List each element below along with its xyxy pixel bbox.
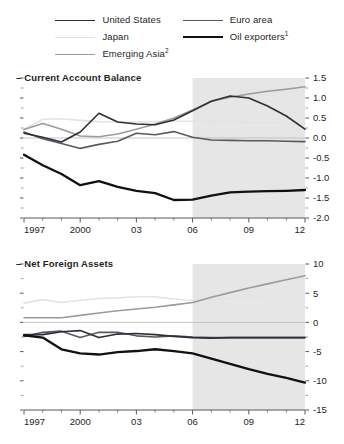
x-axis-label: 12	[294, 224, 305, 235]
legend-label-oil-exporters-text: Oil exporters	[230, 31, 285, 42]
y-axis-label: -1.0	[313, 172, 329, 183]
legend-label-japan: Japan	[102, 32, 128, 42]
legend-label-emerging-asia-text: Emerging Asia	[102, 48, 165, 59]
legend-column-left: United States Japan Emerging Asia2	[55, 14, 168, 60]
panel-net-foreign-assets: – Net Foreign Assets 1050-5-10-151997200…	[0, 252, 344, 438]
y-axis-label: 5	[313, 288, 318, 299]
y-axis-label: 1.5	[313, 72, 326, 83]
x-axis-label: 12	[294, 416, 305, 427]
plot-net-foreign-assets: 1050-5-10-151997200003060912	[0, 252, 344, 438]
legend-swatch-japan	[55, 37, 95, 38]
chart-page: United States Japan Emerging Asia2 Euro …	[0, 0, 344, 444]
x-axis-label: 1997	[24, 416, 45, 427]
x-axis-label: 2000	[70, 224, 91, 235]
legend-item-japan: Japan	[55, 31, 168, 43]
legend-swatch-euro-area	[183, 20, 223, 21]
y-axis-label: 1.0	[313, 92, 326, 103]
legend-swatch-emerging-asia	[55, 54, 95, 55]
x-axis-label: 06	[187, 416, 198, 427]
y-axis-label: -2.0	[313, 212, 329, 223]
y-axis-label: -0.5	[313, 152, 329, 163]
legend-item-emerging-asia: Emerging Asia2	[55, 48, 168, 60]
y-axis-label: -15	[313, 404, 327, 415]
plot-current-account-balance: 1.51.00.50.0-0.5-1.0-1.5-2.0199720000306…	[0, 66, 344, 246]
y-axis-label: 0	[313, 317, 318, 328]
y-axis-label: 10	[313, 258, 324, 269]
x-axis-label: 2000	[70, 416, 91, 427]
legend-footnote-marker-2: 2	[165, 47, 169, 54]
y-axis-label: -10	[313, 375, 327, 386]
legend-item-euro-area: Euro area	[183, 14, 289, 26]
x-axis-label: 09	[244, 416, 255, 427]
x-axis-label: 03	[131, 224, 142, 235]
legend-swatch-oil-exporters	[183, 36, 223, 38]
chart-legend: United States Japan Emerging Asia2 Euro …	[0, 14, 344, 60]
x-axis-label: 06	[187, 224, 198, 235]
x-axis-label: 03	[131, 416, 142, 427]
legend-footnote-marker-1: 1	[285, 30, 289, 37]
legend-label-oil-exporters: Oil exporters1	[230, 32, 289, 42]
legend-label-euro-area: Euro area	[230, 15, 273, 25]
x-axis-label: 09	[244, 224, 255, 235]
y-axis-label: -1.5	[313, 192, 329, 203]
x-axis-label: 1997	[24, 224, 45, 235]
y-axis-label: 0.5	[313, 112, 326, 123]
legend-item-oil-exporters: Oil exporters1	[183, 31, 289, 43]
legend-label-emerging-asia: Emerging Asia2	[102, 49, 168, 59]
legend-column-right: Euro area Oil exporters1	[183, 14, 289, 60]
legend-label-united-states: United States	[102, 15, 160, 25]
panel-current-account-balance: – Current Account Balance 1.51.00.50.0-0…	[0, 66, 344, 246]
legend-swatch-united-states	[55, 20, 95, 21]
legend-item-united-states: United States	[55, 14, 168, 26]
y-axis-label: 0.0	[313, 132, 326, 143]
y-axis-label: -5	[313, 346, 321, 357]
